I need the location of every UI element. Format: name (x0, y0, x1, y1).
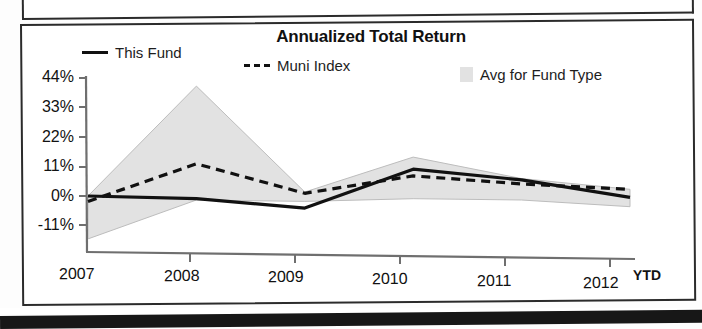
avg-for-fund-type-band (88, 86, 630, 239)
annualized-total-return-chart: Annualized Total Return This Fund Muni I… (0, 0, 702, 329)
scanned-page: Annualized Total Return This Fund Muni I… (0, 0, 702, 329)
x-axis-line (86, 252, 635, 259)
plot-canvas (0, 0, 702, 329)
